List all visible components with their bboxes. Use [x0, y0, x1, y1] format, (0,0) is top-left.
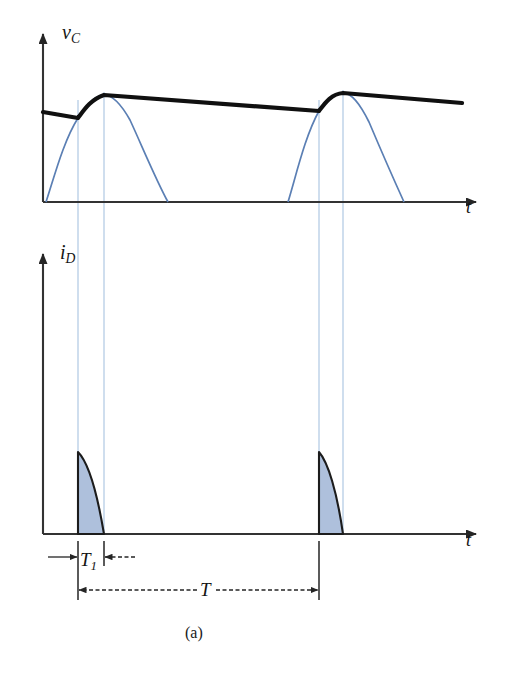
diode-current-pulse-1 — [78, 452, 104, 534]
diode-current-pulse-2 — [319, 452, 343, 534]
period-dimension-label: T — [200, 580, 211, 599]
rectifier-waveform-figure — [0, 0, 522, 680]
vc-curve — [43, 93, 462, 118]
t1-dimension-label: T1 — [80, 550, 97, 573]
id-time-axis-label: t — [466, 531, 471, 549]
sine-hump-1 — [46, 95, 168, 202]
guide-lines — [78, 90, 343, 534]
vc-panel — [43, 34, 476, 534]
vc-axis-label: vC — [62, 22, 80, 45]
vc-time-axis-label: t — [466, 198, 471, 216]
id-axis-label: iD — [60, 242, 75, 265]
figure-caption: (a) — [185, 624, 203, 642]
id-panel — [43, 254, 476, 534]
